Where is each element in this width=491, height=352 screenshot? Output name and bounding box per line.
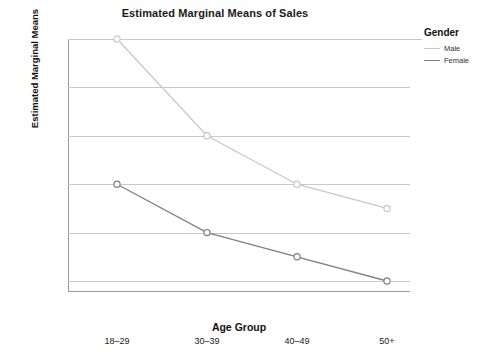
legend-title: Gender	[424, 27, 491, 38]
data-point-male-1[interactable]	[204, 133, 210, 139]
series-plot	[68, 39, 410, 291]
series-male-line	[114, 36, 390, 212]
chart-container: Estimated Marginal Means of Sales 10.00 …	[0, 0, 491, 352]
line-male	[117, 39, 387, 208]
x-tick-label-40-49: 40–49	[262, 336, 332, 346]
data-point-female-3[interactable]	[384, 278, 390, 284]
legend: Gender Male Female	[424, 27, 491, 68]
y-axis-title: Estimated Marginal Means	[29, 0, 40, 149]
legend-top-rule	[358, 39, 422, 40]
legend-label-female: Female	[444, 56, 469, 65]
data-point-male-0[interactable]	[114, 36, 120, 42]
legend-swatch-female	[424, 60, 440, 61]
x-tick-label-50plus: 50+	[352, 336, 422, 346]
plot-area: 10.00 9.00 8.00 7.00 6.00 5.00 18–29 30–…	[68, 39, 410, 291]
legend-item-female[interactable]: Female	[424, 56, 491, 65]
x-axis-line	[68, 291, 410, 292]
data-point-female-2[interactable]	[294, 254, 300, 260]
data-point-male-3[interactable]	[384, 205, 390, 211]
data-point-female-1[interactable]	[204, 230, 210, 236]
series-female-line	[114, 181, 390, 284]
x-tick-label-30-39: 30–39	[172, 336, 242, 346]
data-point-female-0[interactable]	[114, 181, 120, 187]
legend-swatch-male	[424, 48, 440, 49]
x-axis-title: Age Group	[68, 321, 410, 333]
chart-title: Estimated Marginal Means of Sales	[0, 7, 430, 19]
legend-item-male[interactable]: Male	[424, 44, 491, 53]
line-female	[117, 184, 387, 281]
data-point-male-2[interactable]	[294, 181, 300, 187]
x-tick-label-18-29: 18–29	[82, 336, 152, 346]
legend-label-male: Male	[444, 44, 460, 53]
